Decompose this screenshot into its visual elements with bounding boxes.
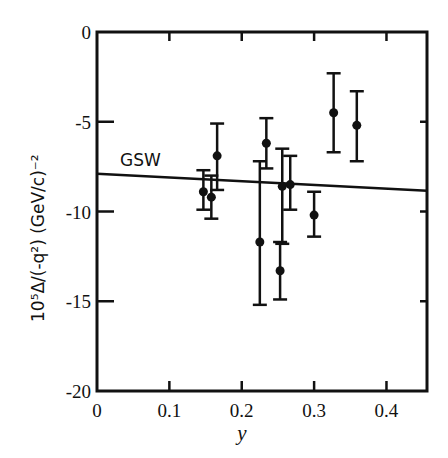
x-tick-label: 0.3 [302, 400, 326, 421]
gsw-model-line [97, 174, 427, 191]
x-tick-label: 0 [92, 400, 102, 421]
y-tick-label: 0 [82, 22, 92, 43]
y-axis-ticks: 0-5-10-15-20 [66, 22, 427, 402]
y-tick-label: -10 [66, 202, 91, 223]
data-point [327, 73, 341, 152]
marker-dot [255, 238, 264, 247]
y-axis-title-text: 10⁵Δ/(-q²) (GeV/c)⁻² [28, 154, 48, 322]
gsw-label: GSW [120, 150, 161, 170]
marker-dot [276, 266, 285, 275]
data-points [196, 73, 363, 305]
chart: 00.10.20.30.4 0-5-10-15-20 GSW y 10⁵Δ/(-… [0, 0, 448, 458]
marker-dot [207, 193, 216, 202]
marker-dot [213, 151, 222, 160]
marker-dot [310, 211, 319, 220]
marker-dot [199, 187, 208, 196]
data-point [350, 91, 364, 161]
plot-border [97, 32, 427, 391]
x-tick-label: 0.4 [375, 400, 399, 421]
plot-frame [97, 32, 427, 391]
data-point [273, 242, 287, 299]
marker-dot [329, 108, 338, 117]
data-point [307, 192, 321, 237]
marker-dot [278, 182, 287, 191]
x-tick-label: 0.2 [230, 400, 254, 421]
y-tick-label: -15 [66, 291, 91, 312]
marker-dot [286, 180, 295, 189]
marker-dot [262, 139, 271, 148]
gsw-line [97, 174, 427, 191]
x-axis-title: y [235, 421, 247, 445]
marker-dot [352, 121, 361, 130]
x-tick-label: 0.1 [157, 400, 181, 421]
y-axis-title: 10⁵Δ/(-q²) (GeV/c)⁻² [28, 154, 48, 322]
y-tick-label: -5 [75, 112, 91, 133]
data-point [275, 149, 289, 244]
y-tick-label: -20 [66, 381, 91, 402]
